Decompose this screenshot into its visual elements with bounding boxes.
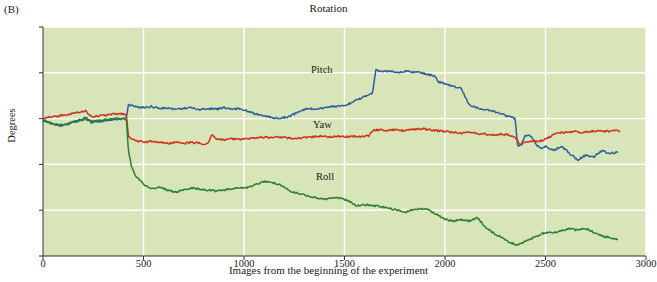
series-label-yaw: Yaw xyxy=(313,119,332,130)
figure-panel-b: (B) Rotation 1 0.5 0 –0.5 –1 –1.5 Degree… xyxy=(0,0,657,282)
chart-title: Rotation xyxy=(0,2,657,14)
plot-area xyxy=(0,0,657,282)
x-axis-title: Images from the beginning of the experim… xyxy=(0,264,657,276)
series-label-pitch: Pitch xyxy=(311,64,333,75)
y-axis-title: Degrees xyxy=(6,91,17,161)
series-label-roll: Roll xyxy=(316,171,334,182)
